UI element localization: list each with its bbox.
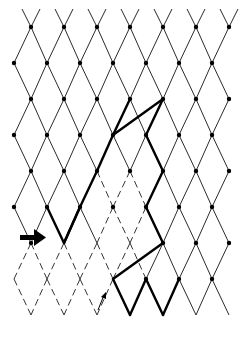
- lattice-node: [45, 205, 49, 209]
- lattice-node: [177, 133, 181, 137]
- lattice-node: [161, 25, 165, 29]
- lattice-node: [144, 61, 148, 65]
- lattice-node: [95, 97, 99, 101]
- lattice-node: [95, 169, 99, 173]
- up-right-arrow-icon: [98, 292, 106, 310]
- lattice-node: [177, 205, 181, 209]
- lattice-node: [128, 169, 132, 173]
- lattice-node: [78, 205, 82, 209]
- lattice-node: [45, 61, 49, 65]
- lattice-node: [177, 277, 181, 281]
- lattice-node: [128, 25, 132, 29]
- lattice-node: [12, 133, 16, 137]
- lattice-node: [161, 241, 165, 245]
- lattice-node: [210, 277, 214, 281]
- lattice-node: [194, 169, 198, 173]
- lattice-node: [62, 25, 66, 29]
- lattice-node: [144, 277, 148, 281]
- lattice-node: [45, 133, 49, 137]
- lattice-node: [111, 61, 115, 65]
- lattice-node: [194, 97, 198, 101]
- lattice-node: [227, 97, 231, 101]
- lattice-node: [12, 205, 16, 209]
- lattice-node: [227, 169, 231, 173]
- lattice-node: [29, 25, 33, 29]
- lattice-node: [128, 97, 132, 101]
- lattice-node: [210, 61, 214, 65]
- lattice-node: [210, 133, 214, 137]
- lattice-node: [29, 97, 33, 101]
- lattice-node: [78, 133, 82, 137]
- lattice-node: [144, 205, 148, 209]
- lattice-node: [95, 25, 99, 29]
- lattice-node: [210, 205, 214, 209]
- lattice-node: [111, 133, 115, 137]
- lattice-node: [12, 61, 16, 65]
- lattice-node: [194, 25, 198, 29]
- lattice-node: [111, 205, 115, 209]
- lattice-diagram: [0, 0, 244, 358]
- lattice-node: [29, 169, 33, 173]
- lattice-node: [194, 241, 198, 245]
- lattice-node: [62, 169, 66, 173]
- lattice-node: [29, 241, 33, 245]
- lattice-node: [227, 241, 231, 245]
- lattice-node: [161, 97, 165, 101]
- lattice-node: [177, 61, 181, 65]
- lattice-node: [144, 133, 148, 137]
- lattice-node: [78, 61, 82, 65]
- lattice-node: [227, 25, 231, 29]
- lattice-node: [161, 169, 165, 173]
- dashed-region: [14, 171, 146, 315]
- lattice-node: [62, 97, 66, 101]
